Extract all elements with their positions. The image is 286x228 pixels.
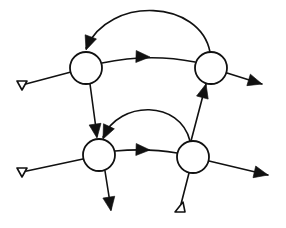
directed-graph-diagram xyxy=(0,0,286,228)
input-terminal-icon xyxy=(175,202,185,212)
arrowhead-icon xyxy=(80,35,96,52)
arrowhead-icon xyxy=(89,123,103,139)
edge-ba xyxy=(86,11,210,52)
edge-ind xyxy=(180,173,189,208)
input-terminal-icon xyxy=(17,81,27,90)
edge-ina xyxy=(22,72,71,85)
edge-ab xyxy=(102,58,195,63)
input-terminal-icon xyxy=(17,168,27,177)
arrowheads-layer xyxy=(17,35,269,212)
arrowhead-icon xyxy=(197,82,212,99)
edge-inc xyxy=(22,159,83,172)
arrowhead-icon xyxy=(253,166,269,181)
node-b xyxy=(195,52,227,84)
edge-dc xyxy=(103,110,190,141)
node-c xyxy=(83,139,115,171)
edges-layer xyxy=(22,11,268,209)
arrowhead-icon xyxy=(136,51,150,63)
arrowhead-icon xyxy=(247,74,264,90)
node-d xyxy=(177,141,209,173)
arrowhead-icon xyxy=(136,144,150,156)
arrowhead-icon xyxy=(103,196,117,212)
node-a xyxy=(70,52,102,84)
